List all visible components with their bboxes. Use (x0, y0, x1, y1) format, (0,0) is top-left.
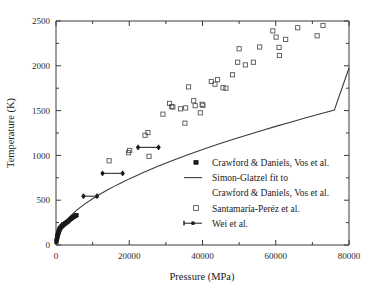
open-square-marker (146, 130, 150, 134)
legend-label: Crawford & Daniels, Vos et al. (212, 188, 329, 198)
fit-curve-path (56, 68, 349, 245)
open-square-marker (230, 73, 234, 77)
axis-tick-labels: 0200004000060000800000500100015002000250… (32, 16, 361, 261)
legend-label: Simon-Glatzel fit to (212, 173, 288, 183)
open-square-marker (258, 45, 262, 49)
legend-marker-open-square (194, 206, 199, 211)
open-square-marker (243, 63, 247, 67)
open-square-marker (183, 121, 187, 125)
y-tick-label: 500 (37, 195, 51, 205)
wei-point-marker (136, 145, 140, 149)
open-square-marker (277, 53, 281, 57)
open-square-marker (271, 29, 275, 33)
open-square-marker (315, 34, 319, 38)
wei-point-marker (82, 194, 86, 198)
open-square-marker (107, 159, 111, 163)
open-square-marker (184, 106, 188, 110)
wei-point-marker (157, 145, 161, 149)
y-tick-label: 0 (46, 240, 51, 250)
y-tick-label: 2000 (32, 61, 51, 71)
legend-marker-filled-square (194, 160, 198, 164)
open-square-marker (237, 47, 241, 51)
open-square-marker (296, 26, 300, 30)
open-square-marker (251, 60, 255, 64)
open-square-marker (198, 111, 202, 115)
wei-point-marker (121, 171, 125, 175)
x-axis-title: Pressure (MPa) (169, 271, 235, 283)
y-tick-label: 1000 (32, 151, 51, 161)
y-axis-title: Temperature (K) (5, 97, 17, 168)
legend-label: Santamaría-Peréz et al. (212, 204, 300, 214)
chart-legend: Crawford & Daniels, Vos et al.Simon-Glat… (184, 158, 329, 229)
wei-points (82, 145, 161, 199)
wei-point-marker (95, 194, 99, 198)
open-square-marker (274, 35, 278, 39)
open-square-marker (236, 60, 240, 64)
open-square-marker (192, 99, 196, 103)
open-square-marker (178, 107, 182, 111)
open-square-marker (186, 85, 190, 89)
legend-label: Wei et al. (212, 219, 248, 229)
open-square-marker (284, 37, 288, 41)
y-tick-label: 2500 (32, 16, 51, 26)
x-tick-label: 40000 (191, 251, 214, 261)
open-square-marker (215, 78, 219, 82)
filled-square-marker (75, 213, 79, 217)
plot-frame (56, 21, 349, 245)
open-square-marker (193, 104, 197, 108)
open-square-marker (147, 154, 151, 158)
open-square-marker (277, 45, 281, 49)
chart-figure: 0200004000060000800000500100015002000250… (0, 0, 373, 289)
open-square-marker (143, 133, 147, 137)
y-tick-label: 1500 (32, 106, 51, 116)
x-tick-label: 60000 (265, 251, 288, 261)
x-tick-label: 20000 (118, 251, 141, 261)
open-square-marker (321, 23, 325, 27)
x-tick-label: 80000 (338, 251, 361, 261)
santamaria-perez-points (107, 23, 325, 162)
crawford-daniels-points (55, 213, 79, 244)
scatter-plot: 0200004000060000800000500100015002000250… (0, 0, 373, 289)
wei-point-marker (101, 171, 105, 175)
simon-glatzel-fit-curve (56, 68, 349, 245)
open-square-marker (161, 112, 165, 116)
axis-ticks (56, 21, 349, 245)
x-tick-label: 0 (54, 251, 59, 261)
legend-label: Crawford & Daniels, Vos et al. (212, 158, 329, 168)
legend-marker-wei-dot (191, 221, 195, 225)
